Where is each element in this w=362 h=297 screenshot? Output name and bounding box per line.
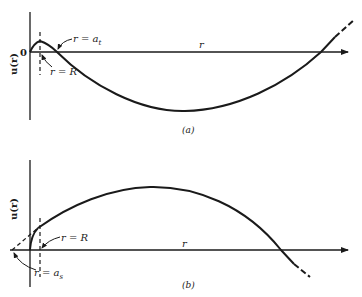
panel-a-curve-dashed-extension [335,19,355,37]
panel-a-range-label: r = R [50,66,78,77]
panel-b-range-arrow [42,237,60,248]
panel-b: u(r) r r = R r = as (b) [8,160,348,290]
panel-a-scattering-length-arrow [58,39,72,49]
panel-a-caption: (a) [182,125,195,135]
panel-b-range-label: r = R [61,232,89,243]
panel-b-extrapolation-dashed [12,228,38,250]
panel-b-caption: (b) [182,280,195,290]
panel-b-y-axis-label: u(r) [8,198,19,220]
panel-b-scattering-length-label: r = as [34,267,63,281]
panel-b-curve-dashed-extension [294,264,310,277]
panel-a: 0 u(r) r r = at r = R (a) [8,12,355,135]
panel-b-scattering-length-arrow [14,253,36,270]
panel-a-scattering-length-label: r = at [73,33,101,47]
figure-canvas: 0 u(r) r r = at r = R (a) u(r) r [0,0,362,297]
panel-a-origin-label: 0 [20,47,27,58]
panel-b-x-axis-label: r [182,238,188,249]
panel-a-x-axis-label: r [199,39,205,50]
panel-b-wavefunction-curve [38,187,294,264]
panel-a-y-axis-label: u(r) [8,53,19,75]
